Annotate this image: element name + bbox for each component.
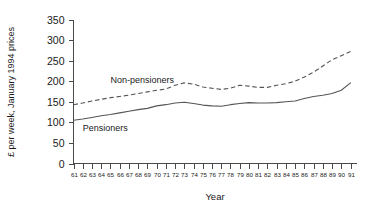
x-tick-label: 61: [71, 171, 78, 178]
x-tick-label: 69: [144, 171, 151, 178]
y-axis-ticks: 050100150200250300350: [47, 14, 74, 170]
x-tick-label: 87: [311, 171, 318, 178]
y-tick-label: 100: [47, 116, 65, 128]
x-tick-label: 68: [135, 171, 142, 178]
chart-container: 050100150200250300350 616263646566676869…: [0, 0, 374, 209]
x-tick-label: 86: [301, 171, 308, 178]
x-tick-label: 73: [181, 171, 188, 178]
x-tick-label: 85: [292, 171, 299, 178]
x-tick-label: 89: [329, 171, 336, 178]
x-tick-label: 91: [348, 171, 355, 178]
x-tick-label: 79: [237, 171, 244, 178]
x-tick-label: 75: [200, 171, 207, 178]
y-tick-label: 150: [47, 96, 65, 108]
chart-series-lines: [74, 52, 351, 121]
chart-axes: [74, 20, 357, 164]
x-tick-label: 65: [107, 171, 114, 178]
x-tick-label: 71: [163, 171, 170, 178]
series-inline-labels: Non-pensionersPensioners: [83, 75, 175, 134]
x-tick-label: 82: [264, 171, 271, 178]
x-tick-label: 63: [89, 171, 96, 178]
x-tick-label: 78: [227, 171, 234, 178]
x-axis-ticks: 6162636465666768697071727374757677787980…: [71, 164, 355, 178]
x-tick-label: 88: [320, 171, 327, 178]
series-label-non-pensioners: Non-pensioners: [110, 75, 174, 85]
x-tick-label: 81: [255, 171, 262, 178]
x-tick-label: 67: [126, 171, 133, 178]
x-tick-label: 66: [117, 171, 124, 178]
y-axis-title: £ per week, January 1994 prices: [6, 26, 16, 157]
y-tick-label: 350: [47, 14, 65, 26]
y-tick-label: 0: [59, 158, 65, 170]
x-tick-label: 70: [154, 171, 161, 178]
x-axis-title: Year: [205, 191, 224, 202]
x-tick-label: 90: [338, 171, 345, 178]
y-tick-label: 200: [47, 75, 65, 87]
x-tick-label: 62: [80, 171, 87, 178]
x-tick-label: 74: [191, 171, 198, 178]
x-tick-label: 80: [246, 171, 253, 178]
x-tick-label: 76: [209, 171, 216, 178]
x-tick-label: 72: [172, 171, 179, 178]
y-tick-label: 300: [47, 34, 65, 46]
y-tick-label: 50: [53, 137, 65, 149]
x-tick-label: 84: [283, 171, 290, 178]
x-tick-label: 83: [274, 171, 281, 178]
x-tick-label: 64: [98, 171, 105, 178]
line-chart: 050100150200250300350 616263646566676869…: [0, 0, 374, 209]
series-label-pensioners: Pensioners: [83, 123, 129, 133]
x-tick-label: 77: [218, 171, 225, 178]
y-tick-label: 250: [47, 55, 65, 67]
